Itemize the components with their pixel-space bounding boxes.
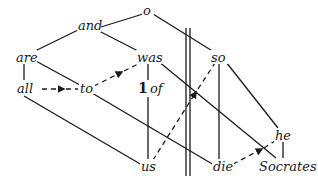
edge-and-was xyxy=(99,31,140,52)
sentence-diagram: o and are was so all to 1 of us die he S… xyxy=(0,0,318,192)
node-socrates: Socrates xyxy=(259,159,317,174)
edge-are-to xyxy=(34,60,80,85)
edge-o-and xyxy=(101,14,143,27)
node-was: was xyxy=(137,50,163,65)
node-us: us xyxy=(141,159,156,174)
node-to: to xyxy=(80,81,93,96)
node-one: 1 xyxy=(138,80,148,96)
node-of: of xyxy=(150,81,165,96)
edge-was-socrates xyxy=(158,61,276,158)
node-he: he xyxy=(275,128,291,143)
node-are: are xyxy=(16,50,38,65)
edge-us-so-tail xyxy=(198,63,215,89)
edge-die-he-tail xyxy=(264,141,275,148)
edge-to-was xyxy=(94,72,122,86)
node-die: die xyxy=(213,159,233,174)
edge-and-are xyxy=(33,30,78,52)
edge-o-so xyxy=(153,14,214,52)
edge-so-he xyxy=(226,62,278,128)
diagram-lines: o and are was so all to 1 of us die he S… xyxy=(0,0,318,192)
node-all: all xyxy=(17,81,33,96)
node-and: and xyxy=(78,18,102,33)
edge-all-us xyxy=(24,96,142,165)
node-so: so xyxy=(211,50,226,65)
edge-to-die xyxy=(92,93,214,165)
node-o: o xyxy=(143,3,151,18)
edge-die-he xyxy=(233,149,262,164)
